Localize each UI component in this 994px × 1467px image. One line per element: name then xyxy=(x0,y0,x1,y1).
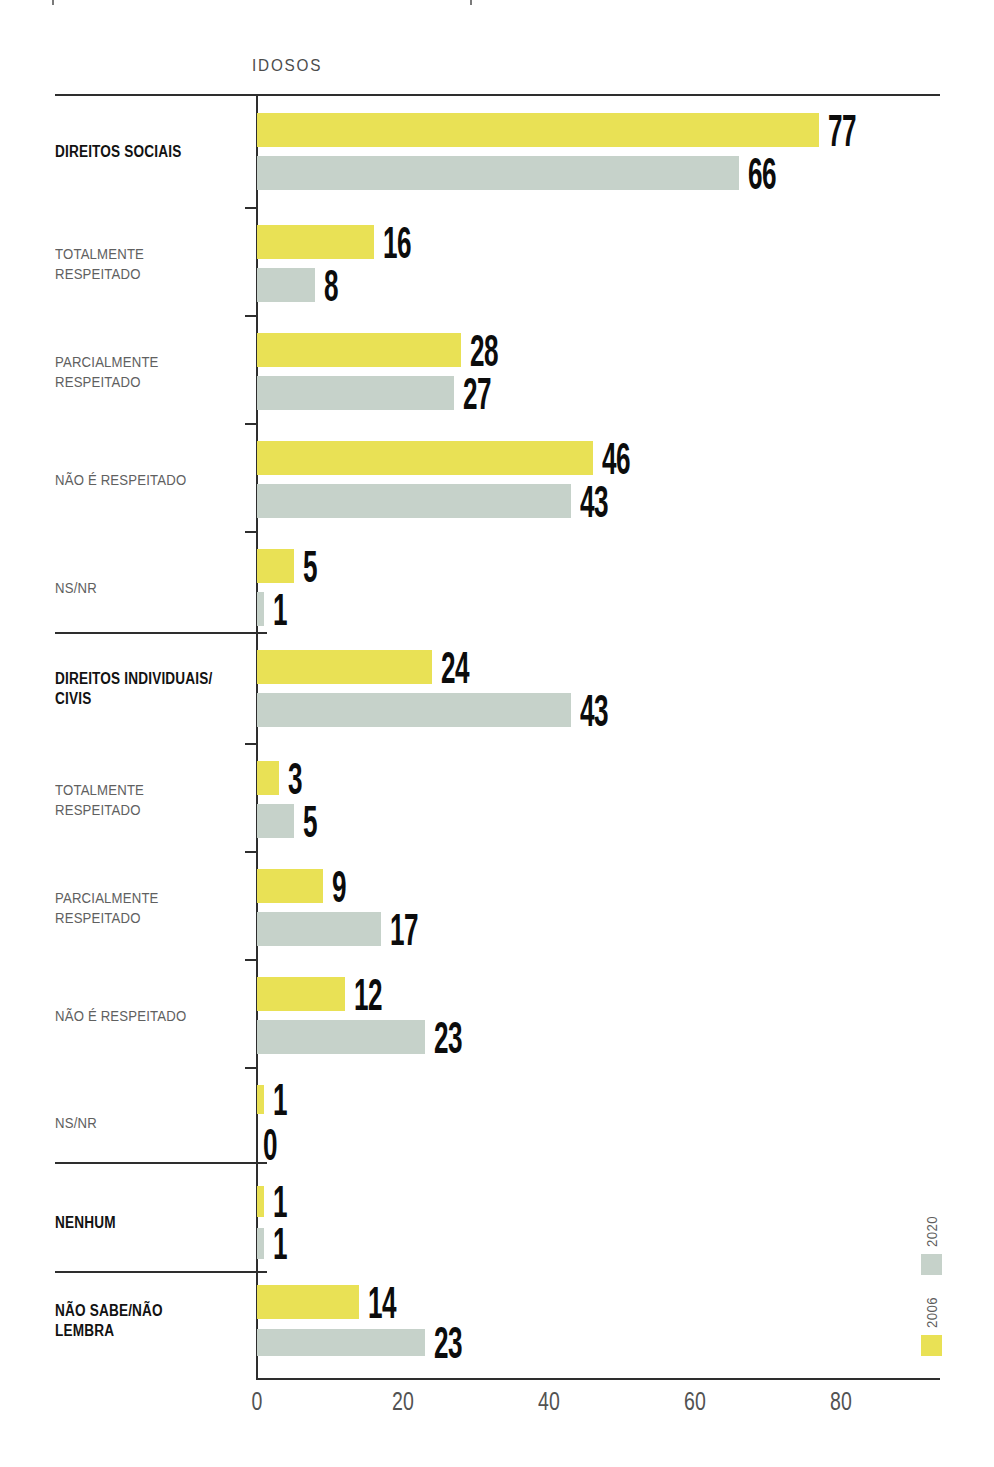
x-tick-text: 40 xyxy=(538,1387,560,1416)
legend-item-2006: 2006 xyxy=(921,1293,942,1356)
x-tick-text: 20 xyxy=(392,1387,414,1416)
book-page: { "page": { "title": "IDOSOS" }, "legend… xyxy=(0,0,994,1467)
legend-label-2020: 2020 xyxy=(923,1211,940,1246)
legend-swatch-2006 xyxy=(921,1335,942,1356)
x-tick-text: 60 xyxy=(684,1387,706,1416)
x-axis-tick-labels: 020406080 xyxy=(0,0,994,1467)
x-tick-label: 0 xyxy=(222,1387,292,1416)
legend-swatch-2020 xyxy=(921,1254,942,1275)
legend-item-2020: 2020 xyxy=(921,1211,942,1274)
x-tick-label: 60 xyxy=(660,1387,730,1416)
legend-label-2006: 2006 xyxy=(923,1293,940,1328)
x-tick-text: 0 xyxy=(252,1387,263,1416)
legend: 2006 2020 xyxy=(921,1211,942,1356)
x-tick-label: 40 xyxy=(514,1387,584,1416)
x-tick-label: 80 xyxy=(806,1387,876,1416)
x-tick-text: 80 xyxy=(830,1387,852,1416)
x-tick-label: 20 xyxy=(368,1387,438,1416)
